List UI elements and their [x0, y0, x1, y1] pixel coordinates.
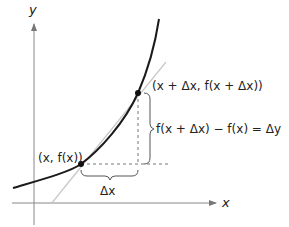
function-curve [13, 19, 159, 188]
point-x-plus-dx-label: (x + Δx, f(x + Δx)) [152, 79, 263, 93]
derivative-diagram: y x (x, f(x)) (x + Δx, f(x + Δx)) Δx f(x… [0, 0, 289, 227]
point-x-label: (x, f(x)) [38, 151, 83, 165]
horizontal-brace [81, 170, 138, 180]
delta-y-label: f(x + Δx) − f(x) = Δy [156, 122, 281, 136]
point-x-plus-dx [135, 90, 141, 96]
y-axis-label: y [28, 2, 37, 17]
x-axis-label: x [221, 195, 230, 210]
vertical-brace [144, 93, 154, 164]
secant-line [51, 62, 166, 204]
delta-x-label: Δx [100, 184, 115, 198]
